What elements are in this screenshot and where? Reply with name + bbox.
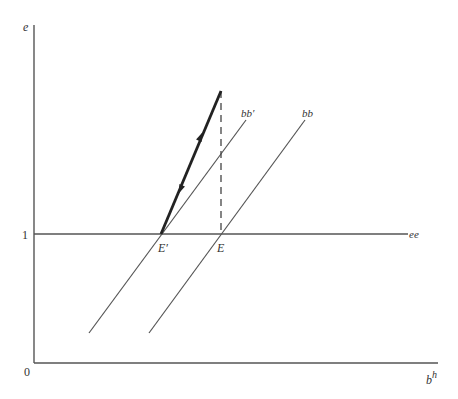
y-axis-label: e bbox=[23, 20, 29, 34]
e-label: E bbox=[216, 241, 225, 255]
origin-label: 0 bbox=[24, 365, 30, 379]
bb-prime-line bbox=[89, 120, 246, 333]
ee-label: ee bbox=[409, 228, 419, 240]
diagram-canvas: e 1 0 bh ee bb′ bb E′ E bbox=[0, 0, 458, 399]
x-axis-label: bh bbox=[426, 369, 437, 387]
adjustment-path bbox=[161, 91, 221, 234]
y-tick-label: 1 bbox=[22, 228, 28, 242]
bb-prime-label: bb′ bbox=[241, 107, 255, 119]
bb-line bbox=[149, 120, 305, 333]
e-prime-label: E′ bbox=[157, 241, 168, 255]
bb-label: bb bbox=[302, 107, 314, 119]
